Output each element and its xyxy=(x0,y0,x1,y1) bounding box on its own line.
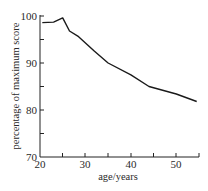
x-tick-label-20: 20 xyxy=(35,158,47,170)
y-ticks xyxy=(40,16,44,134)
y-tick-label-80: 80 xyxy=(26,104,38,116)
line-chart: 100 90 80 70 20 30 40 50 age/years perce… xyxy=(0,0,208,191)
data-line xyxy=(42,18,196,102)
x-tick-label-40: 40 xyxy=(126,158,138,170)
x-tick-label-50: 50 xyxy=(171,158,183,170)
y-axis-title: percentage of maximum score xyxy=(10,22,21,149)
x-axis-title: age/years xyxy=(98,171,138,182)
y-tick-label-90: 90 xyxy=(26,57,38,69)
y-tick-label-100: 100 xyxy=(21,10,38,22)
x-tick-label-30: 30 xyxy=(80,158,92,170)
x-ticks xyxy=(63,153,200,157)
